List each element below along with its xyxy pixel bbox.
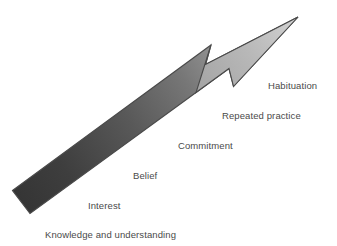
stage-label-interest: Interest xyxy=(88,200,120,211)
stage-label-habituation: Habituation xyxy=(268,80,317,91)
stage-label-commitment: Commitment xyxy=(178,140,233,151)
stage-labels-layer: Habituation Repeated practice Commitment… xyxy=(0,0,337,246)
stage-label-belief: Belief xyxy=(133,170,157,181)
progression-diagram: Habituation Repeated practice Commitment… xyxy=(0,0,337,246)
stage-label-repeated-practice: Repeated practice xyxy=(222,110,301,121)
stage-label-knowledge-and-understanding: Knowledge and understanding xyxy=(45,229,176,240)
